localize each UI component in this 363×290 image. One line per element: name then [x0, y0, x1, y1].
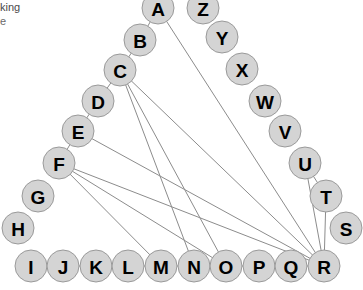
node-label: F	[53, 154, 65, 175]
node-label: T	[320, 187, 332, 208]
node-label: X	[236, 60, 249, 81]
graph-node-o[interactable]: O	[210, 250, 242, 282]
graph-node-h[interactable]: H	[2, 212, 34, 244]
graph-edge	[120, 70, 194, 266]
graph-node-w[interactable]: W	[249, 85, 281, 117]
node-label: Z	[197, 0, 209, 20]
node-label: B	[133, 31, 147, 52]
graph-node-k[interactable]: K	[80, 250, 112, 282]
graph-node-s[interactable]: S	[330, 212, 362, 244]
node-label: S	[340, 219, 353, 240]
node-layer: AZBYCXDWEVFUGTHSIJKLMNOPQR	[2, 0, 362, 282]
graph-node-t[interactable]: T	[310, 180, 342, 212]
graph-node-c[interactable]: C	[104, 54, 136, 86]
node-label: J	[58, 257, 69, 278]
graph-node-f[interactable]: F	[43, 147, 75, 179]
graph-node-r[interactable]: R	[308, 250, 340, 282]
node-label: W	[256, 92, 274, 113]
node-label: K	[89, 257, 103, 278]
graph-node-v[interactable]: V	[269, 115, 301, 147]
node-label: E	[72, 122, 85, 143]
node-link-diagram: AZBYCXDWEVFUGTHSIJKLMNOPQR	[0, 0, 363, 290]
graph-node-p[interactable]: P	[243, 250, 275, 282]
node-label: C	[113, 61, 127, 82]
graph-edge	[59, 163, 226, 266]
node-label: O	[219, 257, 234, 278]
graph-node-x[interactable]: X	[226, 53, 258, 85]
graph-edge	[120, 70, 226, 266]
graph-node-a[interactable]: A	[142, 0, 174, 24]
node-label: R	[317, 257, 331, 278]
node-label: V	[279, 122, 292, 143]
node-label: U	[298, 154, 312, 175]
graph-node-j[interactable]: J	[47, 250, 79, 282]
node-label: M	[153, 257, 169, 278]
node-label: G	[31, 187, 46, 208]
graph-node-q[interactable]: Q	[275, 250, 307, 282]
graph-node-u[interactable]: U	[289, 147, 321, 179]
graph-node-d[interactable]: D	[82, 85, 114, 117]
graph-node-n[interactable]: N	[178, 250, 210, 282]
node-label: L	[122, 257, 134, 278]
graph-edge	[78, 131, 324, 266]
node-label: N	[187, 257, 201, 278]
node-label: Q	[284, 257, 299, 278]
graph-node-i[interactable]: I	[15, 250, 47, 282]
node-label: P	[253, 257, 266, 278]
graph-node-m[interactable]: M	[145, 250, 177, 282]
graph-node-z[interactable]: Z	[187, 0, 219, 24]
node-label: D	[91, 92, 105, 113]
node-label: Y	[216, 28, 229, 49]
graph-canvas: king e AZBYCXDWEVFUGTHSIJKLMNOPQR	[0, 0, 363, 290]
graph-node-g[interactable]: G	[22, 180, 54, 212]
node-label: A	[151, 0, 165, 20]
node-label: H	[11, 219, 25, 240]
graph-edge	[59, 163, 161, 266]
graph-node-l[interactable]: L	[112, 250, 144, 282]
graph-node-b[interactable]: B	[124, 24, 156, 56]
graph-node-e[interactable]: E	[62, 115, 94, 147]
node-label: I	[28, 257, 33, 278]
graph-node-y[interactable]: Y	[206, 21, 238, 53]
